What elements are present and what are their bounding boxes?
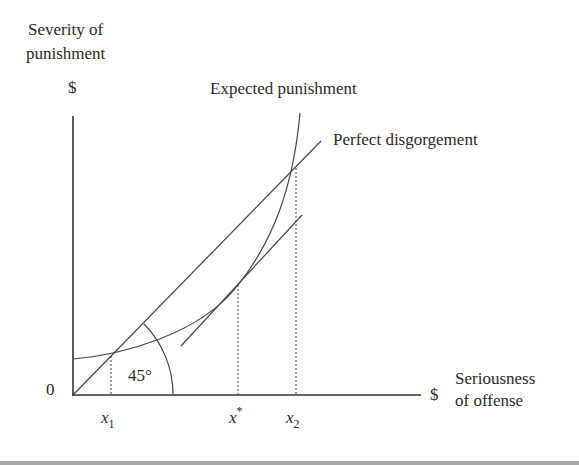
footer-band — [0, 461, 579, 465]
x2-label: x2 — [286, 408, 300, 429]
x-axis-label-line2: of offense — [455, 391, 523, 411]
xstar-base: x — [229, 408, 237, 427]
angle-label: 45° — [128, 366, 152, 386]
x1-label: x1 — [101, 408, 115, 429]
y-axis-unit: $ — [68, 78, 77, 98]
expected-punishment-label: Expected punishment — [210, 79, 357, 99]
x2-subscript: 2 — [294, 417, 300, 431]
perfect-disgorgement-line — [73, 141, 321, 395]
xstar-label: x* — [229, 408, 243, 429]
perfect-disgorgement-label: Perfect disgorgement — [333, 130, 478, 150]
x-axis-unit: $ — [430, 385, 439, 405]
tangent-line — [181, 215, 302, 346]
y-axis-label-line1: Severity of — [28, 20, 103, 40]
x2-base: x — [286, 408, 294, 427]
expected-punishment-curve — [73, 113, 300, 359]
origin-label: 0 — [46, 380, 55, 400]
x1-subscript: 1 — [109, 417, 115, 431]
x-axis-label-line1: Seriousness — [455, 369, 535, 389]
x1-base: x — [101, 408, 109, 427]
xstar-superscript: * — [237, 404, 243, 418]
y-axis-label-line2: punishment — [26, 44, 105, 64]
